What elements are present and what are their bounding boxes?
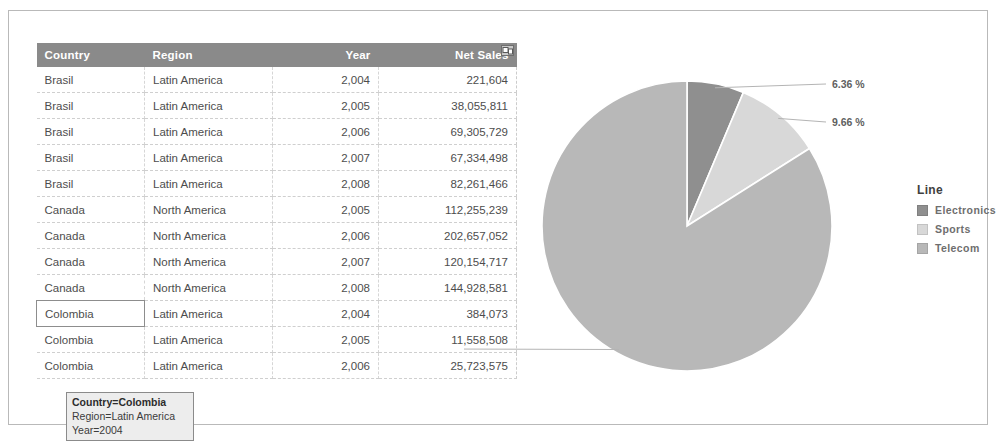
legend-title: Line [917,183,1005,197]
table-row[interactable]: BrasilLatin America2,00538,055,811 [37,93,517,119]
pie-leader-line [715,84,826,88]
legend-swatch-icon [917,243,928,254]
cell-country[interactable]: Canada [37,197,145,223]
table-row[interactable]: CanadaNorth America2,005112,255,239 [37,197,517,223]
tooltip-line-country: Country=Colombia [72,395,189,409]
table-row[interactable]: ColombiaLatin America2,004384,073 [37,301,517,327]
table-row[interactable]: BrasilLatin America2,004221,604 [37,67,517,93]
cell-year[interactable]: 2,004 [273,301,379,327]
column-header-year[interactable]: Year [273,43,379,67]
cell-country[interactable]: Colombia [37,327,145,353]
table-row[interactable]: CanadaNorth America2,008144,928,581 [37,275,517,301]
cell-region[interactable]: Latin America [145,171,273,197]
cell-year[interactable]: 2,006 [273,223,379,249]
cell-year[interactable]: 2,006 [273,353,379,379]
column-header-region[interactable]: Region [145,43,273,67]
cell-region[interactable]: North America [145,223,273,249]
tooltip-line-region: Region=Latin America [72,409,189,423]
legend-swatch-icon [917,224,928,235]
cell-country[interactable]: Canada [37,275,145,301]
cell-region[interactable]: Latin America [145,145,273,171]
legend-item-telecom[interactable]: Telecom [917,242,1005,254]
legend-item-electronics[interactable]: Electronics [917,204,1005,216]
cell-country[interactable]: Brasil [37,171,145,197]
cell-year[interactable]: 2,006 [273,119,379,145]
table-row[interactable]: BrasilLatin America2,00767,334,498 [37,145,517,171]
cell-region[interactable]: Latin America [145,119,273,145]
table-row[interactable]: CanadaNorth America2,007120,154,717 [37,249,517,275]
cell-year[interactable]: 2,008 [273,275,379,301]
table-row[interactable]: CanadaNorth America2,006202,657,052 [37,223,517,249]
cell-region[interactable]: North America [145,249,273,275]
cell-year[interactable]: 2,007 [273,145,379,171]
report-canvas: Country Region Year Net Sales BrasilLati… [8,10,988,425]
pie-chart[interactable]: 6.36 %9.66 %83.99 % [464,33,884,413]
pie-label-electronics: 6.36 % [832,78,865,90]
legend-swatch-icon [917,205,928,216]
cell-region[interactable]: Latin America [145,327,273,353]
tooltip-line-year: Year=2004 [72,423,189,437]
cell-region[interactable]: Latin America [145,93,273,119]
cell-country[interactable]: Brasil [37,145,145,171]
legend-item-label: Telecom [935,242,980,254]
table-row[interactable]: BrasilLatin America2,00669,305,729 [37,119,517,145]
cell-tooltip: Country=Colombia Region=Latin America Ye… [66,392,194,441]
legend-item-label: Electronics [935,204,996,216]
cell-country[interactable]: Canada [37,249,145,275]
table-row[interactable]: ColombiaLatin America2,00511,558,508 [37,327,517,353]
cell-region[interactable]: Latin America [145,353,273,379]
pie-label-sports: 9.66 % [832,116,865,128]
legend-items: ElectronicsSportsTelecom [917,204,1005,254]
cell-year[interactable]: 2,008 [273,171,379,197]
legend-item-label: Sports [935,223,971,235]
table-row[interactable]: BrasilLatin America2,00882,261,466 [37,171,517,197]
cell-country[interactable]: Brasil [37,67,145,93]
cell-year[interactable]: 2,005 [273,93,379,119]
cell-year[interactable]: 2,004 [273,67,379,93]
cell-region[interactable]: Latin America [145,301,273,327]
cell-region[interactable]: North America [145,275,273,301]
pie-leader-line [464,349,619,350]
table-header: Country Region Year Net Sales [37,43,517,67]
net-sales-table[interactable]: Country Region Year Net Sales BrasilLati… [36,43,517,379]
cell-year[interactable]: 2,007 [273,249,379,275]
pie-slices[interactable] [542,81,832,371]
cell-country[interactable]: Canada [37,223,145,249]
table-header-row: Country Region Year Net Sales [37,43,517,67]
cell-region[interactable]: Latin America [145,67,273,93]
pie-chart-svg[interactable]: 6.36 %9.66 %83.99 % [464,33,884,413]
legend-item-sports[interactable]: Sports [917,223,1005,235]
cell-country[interactable]: Colombia [37,301,145,327]
cell-country[interactable]: Brasil [37,119,145,145]
cell-country[interactable]: Brasil [37,93,145,119]
table-row[interactable]: ColombiaLatin America2,00625,723,575 [37,353,517,379]
cell-year[interactable]: 2,005 [273,327,379,353]
cell-region[interactable]: North America [145,197,273,223]
chart-legend: Line ElectronicsSportsTelecom [917,183,1005,261]
column-header-country[interactable]: Country [37,43,145,67]
table-body: BrasilLatin America2,004221,604BrasilLat… [37,67,517,379]
cell-country[interactable]: Colombia [37,353,145,379]
cell-year[interactable]: 2,005 [273,197,379,223]
